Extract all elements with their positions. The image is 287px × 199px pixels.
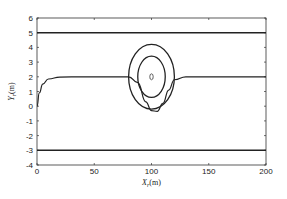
y-axis-label: Yr(m) [7,82,17,101]
y-tick-label: 5 [29,29,34,38]
trajectory-line [37,77,266,112]
x-tick-label: 200 [259,167,273,176]
obstacle [150,74,153,80]
y-tick-label: -3 [26,146,34,155]
plot-area: 050100150200-4-3-2-10123456Xr(m)Yr(m) [7,14,273,188]
axes-frame [37,18,266,165]
y-tick-label: -4 [26,161,34,170]
chart: 050100150200-4-3-2-10123456Xr(m)Yr(m) [0,0,287,199]
y-tick-label: 0 [29,102,34,111]
x-axis-label: Xr(m) [141,178,161,188]
x-tick-label: 50 [90,167,99,176]
x-tick-label: 150 [202,167,216,176]
y-tick-label: -1 [26,117,34,126]
y-tick-label: 6 [29,14,34,23]
outer-ellipse [129,44,175,109]
y-tick-label: 3 [29,58,34,67]
y-tick-label: -2 [26,132,34,141]
inner-ellipse [138,56,165,97]
y-tick-label: 2 [29,73,34,82]
x-tick-label: 100 [145,167,159,176]
y-tick-label: 4 [29,43,34,52]
y-tick-label: 1 [29,88,34,97]
x-tick-label: 0 [35,167,40,176]
